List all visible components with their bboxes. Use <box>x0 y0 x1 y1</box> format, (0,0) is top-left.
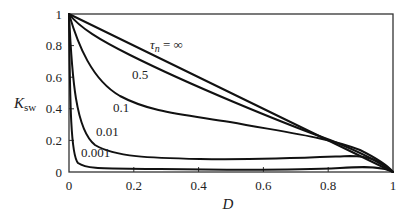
x-tick: 0.2 <box>126 178 142 193</box>
curve-tau-inf <box>69 14 393 172</box>
y-tick: 0.8 <box>46 38 62 53</box>
y-tick-labels: 1 0.8 0.6 0.4 0.2 0 <box>46 7 63 180</box>
y-tick: 0 <box>56 165 63 180</box>
y-axis-title: Ksw <box>13 95 36 113</box>
y-tick: 0.6 <box>46 70 63 85</box>
x-tick: 0 <box>66 178 73 193</box>
label-tau-0.1: 0.1 <box>113 100 129 115</box>
label-tau-inf: τn = ∞ <box>150 37 183 54</box>
x-tick: 1 <box>390 178 397 193</box>
y-tick: 0.2 <box>46 133 62 148</box>
y-tick: 1 <box>56 7 63 22</box>
label-tau-0.5: 0.5 <box>132 67 148 82</box>
label-tau-0.01: 0.01 <box>96 124 119 139</box>
x-tick: 0.8 <box>320 178 336 193</box>
label-tau-0.001: 0.001 <box>81 145 110 160</box>
x-tick: 0.6 <box>255 178 272 193</box>
x-tick-labels: 0 0.2 0.4 0.6 0.8 1 <box>66 178 397 193</box>
x-tick: 0.4 <box>190 178 207 193</box>
y-tick: 0.4 <box>46 101 63 116</box>
chart: 1 0.8 0.6 0.4 0.2 0 0 0.2 0.4 0.6 0.8 1 … <box>0 0 409 216</box>
x-axis-title: D <box>222 196 234 212</box>
